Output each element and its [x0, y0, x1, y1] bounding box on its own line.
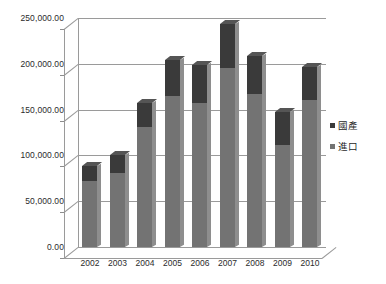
bar-segment[interactable] [82, 181, 97, 247]
bar-column[interactable] [137, 103, 152, 247]
bar-segment[interactable] [220, 24, 235, 68]
y-axis-tick-label: 250,000.00 [20, 13, 64, 23]
bar-segment[interactable] [192, 103, 207, 247]
legend-item[interactable]: 進口 [330, 139, 358, 153]
bar-segment[interactable] [275, 112, 290, 145]
bar-series-group [64, 8, 334, 258]
y-axis-tick-label: 150,000.00 [20, 105, 64, 115]
bar-segment[interactable] [165, 96, 180, 247]
bar-side-face [207, 63, 211, 247]
bar-column[interactable] [302, 67, 317, 247]
bar-column[interactable] [165, 60, 180, 247]
bar-segment[interactable] [165, 60, 180, 96]
bar-side-face [97, 164, 101, 247]
y-axis-tick-label: 100,000.00 [20, 150, 64, 160]
bar-segment[interactable] [82, 166, 97, 181]
bar-side-face [262, 53, 266, 247]
legend-label: 國產 [338, 118, 358, 132]
x-axis-tick-label: 2010 [293, 258, 327, 268]
bar-segment[interactable] [137, 103, 152, 127]
bar-column[interactable] [192, 65, 207, 247]
y-axis-tick-label: 50,000.00 [25, 196, 64, 206]
bar-column[interactable] [110, 155, 125, 247]
y-axis-tick-label: 200,000.00 [20, 59, 64, 69]
bar-side-face [317, 64, 321, 247]
plot-area [64, 8, 334, 258]
bar-column[interactable] [82, 166, 97, 247]
bar-side-face [235, 22, 239, 247]
bar-segment[interactable] [275, 145, 290, 247]
legend-item[interactable]: 國產 [330, 118, 358, 132]
bar-segment[interactable] [302, 100, 317, 247]
y-axis: 0.0050,000.00100,000.00150,000.00200,000… [0, 0, 64, 284]
bar-segment[interactable] [247, 94, 262, 247]
bar-column[interactable] [220, 24, 235, 247]
legend-swatch-icon [330, 123, 335, 128]
bar-segment[interactable] [302, 67, 317, 100]
bar-side-face [152, 101, 156, 247]
bar-segment[interactable] [137, 127, 152, 247]
y-axis-tick-label: 0.00 [47, 242, 64, 252]
chart-container: 0.0050,000.00100,000.00150,000.00200,000… [0, 0, 386, 284]
bar-column[interactable] [247, 56, 262, 247]
bar-segment[interactable] [220, 68, 235, 247]
bar-segment[interactable] [110, 155, 125, 172]
legend-swatch-icon [330, 144, 335, 149]
bar-side-face [125, 153, 129, 247]
x-axis: 200220032004200520062007200820092010 [64, 258, 334, 280]
bar-segment[interactable] [110, 173, 125, 247]
bar-side-face [290, 110, 294, 247]
bar-segment[interactable] [247, 56, 262, 94]
bar-side-face [180, 58, 184, 247]
bar-segment[interactable] [192, 65, 207, 103]
bar-column[interactable] [275, 112, 290, 247]
legend-label: 進口 [338, 139, 358, 153]
chart-legend: 國產進口 [330, 118, 358, 160]
